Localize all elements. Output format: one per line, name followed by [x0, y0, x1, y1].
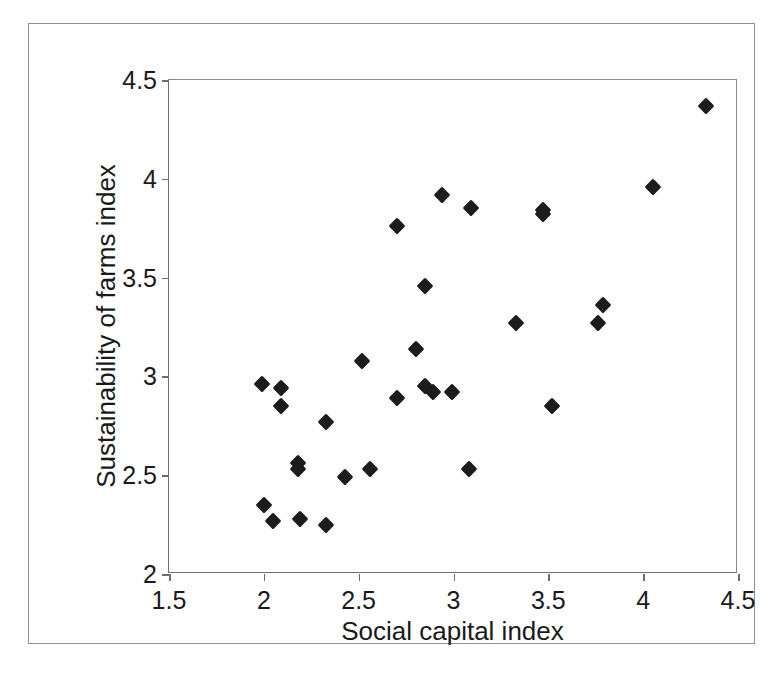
x-axis-tick-label: 3.5 [531, 588, 566, 613]
x-axis-tick [359, 574, 361, 581]
scatter-data-point [644, 178, 661, 195]
y-axis-tick-label: 2.5 [122, 463, 157, 488]
x-axis-tick-label: 1.5 [152, 588, 187, 613]
scatter-data-point [460, 461, 477, 478]
y-axis-title: Sustainability of farms index [91, 79, 122, 573]
x-axis-tick-label: 4 [636, 588, 650, 613]
scatter-data-point [508, 315, 525, 332]
y-axis-tick [162, 179, 169, 181]
scatter-data-point [544, 398, 561, 415]
y-axis-tick-label: 4.5 [122, 68, 157, 93]
x-axis-tick [169, 574, 171, 581]
y-axis-tick [162, 475, 169, 477]
scatter-data-point [388, 218, 405, 235]
scatter-data-point [434, 186, 451, 203]
scatter-data-point [443, 384, 460, 401]
x-axis-tick [738, 574, 740, 581]
scatter-data-point [272, 398, 289, 415]
scatter-data-point [337, 469, 354, 486]
figure-root: 22.533.544.51.522.533.544.5 Social capit… [0, 0, 780, 676]
x-axis-tick-label: 3 [447, 588, 461, 613]
scatter-data-point [265, 512, 282, 529]
y-axis-tick [162, 80, 169, 82]
scatter-data-point [407, 340, 424, 357]
scatter-data-point [255, 496, 272, 513]
scatter-data-point [595, 297, 612, 314]
y-axis-tick [162, 376, 169, 378]
scatter-data-point [589, 315, 606, 332]
x-axis-tick [548, 574, 550, 581]
y-axis-tick-label: 4 [143, 166, 157, 191]
x-axis-tick [454, 574, 456, 581]
scatter-data-point [354, 352, 371, 369]
scatter-data-point [291, 510, 308, 527]
scatter-data-point [318, 516, 335, 533]
scatter-plot-area: 22.533.544.51.522.533.544.5 [168, 79, 737, 573]
scatter-data-point [462, 200, 479, 217]
scatter-data-point [697, 97, 714, 114]
y-axis-tick [162, 574, 169, 576]
scatter-data-point [362, 461, 379, 478]
x-axis-title: Social capital index [168, 616, 737, 647]
y-axis-tick-label: 3.5 [122, 265, 157, 290]
x-axis-tick-label: 2 [257, 588, 271, 613]
x-axis-tick-label: 2.5 [341, 588, 376, 613]
scatter-data-point [253, 376, 270, 393]
scatter-data-point [417, 277, 434, 294]
figure-outer-frame: 22.533.544.51.522.533.544.5 Social capit… [28, 23, 755, 644]
y-axis-tick-label: 2 [143, 562, 157, 587]
y-axis-tick [162, 278, 169, 280]
x-axis-tick [643, 574, 645, 581]
x-axis-tick [264, 574, 266, 581]
x-axis-tick-label: 4.5 [721, 588, 756, 613]
scatter-data-point [272, 380, 289, 397]
scatter-data-point [318, 413, 335, 430]
y-axis-tick-label: 3 [143, 364, 157, 389]
scatter-data-point [388, 390, 405, 407]
